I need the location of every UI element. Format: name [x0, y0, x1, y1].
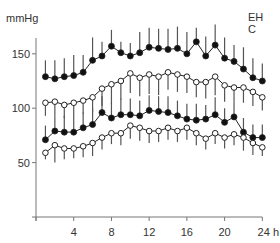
open-circle-marker [222, 135, 228, 141]
legend-c-label: C [248, 23, 256, 35]
series-c-diastolic [43, 123, 265, 163]
filled-circle-marker [52, 128, 58, 134]
filled-circle-marker [203, 116, 209, 122]
axes: 501001504812162024 h [12, 38, 279, 238]
filled-circle-marker [80, 125, 86, 131]
x-tick-label: 12 [143, 226, 155, 238]
open-circle-marker [241, 135, 247, 141]
blood-pressure-chart: mmHg EH C 501001504812162024 h [0, 0, 280, 243]
x-tick-label: 8 [108, 226, 114, 238]
y-tick-label: 150 [12, 48, 30, 60]
open-circle-marker [128, 71, 134, 77]
open-circle-marker [137, 125, 143, 131]
filled-circle-marker [212, 112, 218, 118]
filled-circle-marker [165, 46, 171, 52]
open-circle-marker [109, 81, 115, 87]
open-circle-marker [156, 74, 162, 80]
filled-circle-marker [259, 135, 265, 141]
filled-circle-marker [71, 73, 77, 79]
open-circle-marker [203, 79, 209, 85]
y-tick-label: 100 [12, 102, 30, 114]
open-circle-marker [43, 100, 49, 106]
y-axis-unit-label: mmHg [6, 12, 38, 24]
legend-eh-label: EH [248, 11, 263, 23]
x-tick-label: 16 [181, 226, 193, 238]
open-circle-marker [61, 102, 67, 108]
filled-circle-marker [193, 39, 199, 45]
open-circle-marker [250, 140, 256, 146]
plot-area [42, 24, 265, 162]
open-circle-marker [156, 128, 162, 134]
open-circle-marker [250, 89, 256, 95]
open-circle-marker [90, 95, 96, 101]
open-circle-marker [260, 95, 266, 101]
open-circle-marker [109, 130, 115, 136]
open-circle-marker [231, 132, 237, 138]
open-circle-marker [52, 99, 58, 105]
filled-circle-marker [61, 129, 67, 135]
filled-circle-marker [231, 58, 237, 64]
open-circle-marker [260, 145, 266, 151]
filled-circle-marker [71, 129, 77, 135]
filled-circle-marker [108, 43, 114, 49]
open-circle-marker [184, 125, 190, 131]
filled-circle-marker [90, 122, 96, 128]
open-circle-marker [43, 150, 49, 156]
filled-circle-marker [127, 53, 133, 59]
filled-circle-marker [61, 74, 67, 80]
x-tick-label: 20 [218, 226, 230, 238]
filled-circle-marker [203, 53, 209, 59]
filled-circle-marker [259, 78, 265, 84]
filled-circle-marker [137, 113, 143, 119]
filled-circle-marker [240, 66, 246, 72]
filled-circle-marker [222, 55, 228, 61]
filled-circle-marker [231, 114, 237, 120]
filled-circle-marker [80, 69, 86, 75]
filled-circle-marker [118, 50, 124, 56]
open-circle-marker [71, 100, 77, 106]
filled-circle-marker [222, 119, 228, 125]
open-circle-marker [80, 143, 86, 149]
filled-circle-marker [42, 137, 48, 143]
filled-circle-marker [118, 112, 124, 118]
open-circle-marker [71, 146, 77, 152]
filled-circle-marker [165, 110, 171, 116]
open-circle-marker [231, 85, 237, 91]
open-circle-marker [80, 98, 86, 104]
open-circle-marker [99, 86, 105, 92]
open-circle-marker [137, 75, 143, 81]
open-circle-marker [165, 125, 171, 131]
filled-circle-marker [184, 116, 190, 122]
y-tick-label: 50 [18, 157, 30, 169]
open-circle-marker [146, 72, 152, 78]
filled-circle-marker [212, 42, 218, 48]
filled-circle-marker [99, 53, 105, 59]
open-circle-marker [194, 79, 200, 85]
filled-circle-marker [90, 57, 96, 63]
filled-circle-marker [52, 76, 58, 82]
open-circle-marker [212, 130, 218, 136]
open-circle-marker [118, 130, 124, 136]
filled-circle-marker [156, 108, 162, 114]
filled-circle-marker [42, 74, 48, 80]
filled-circle-marker [174, 45, 180, 51]
open-circle-marker [212, 74, 218, 80]
filled-circle-marker [250, 75, 256, 81]
open-circle-marker [52, 142, 58, 148]
x-tick-label: 4 [71, 226, 77, 238]
filled-circle-marker [184, 51, 190, 57]
filled-circle-marker [146, 44, 152, 50]
filled-circle-marker [127, 112, 133, 118]
filled-circle-marker [146, 107, 152, 113]
open-circle-marker [99, 135, 105, 141]
open-circle-marker [61, 146, 67, 152]
open-circle-marker [222, 83, 228, 89]
open-circle-marker [184, 74, 190, 80]
open-circle-marker [165, 69, 171, 75]
open-circle-marker [146, 128, 152, 134]
open-circle-marker [175, 72, 181, 78]
filled-circle-marker [137, 50, 143, 56]
open-circle-marker [203, 136, 209, 142]
open-circle-marker [194, 130, 200, 136]
filled-circle-marker [240, 129, 246, 135]
